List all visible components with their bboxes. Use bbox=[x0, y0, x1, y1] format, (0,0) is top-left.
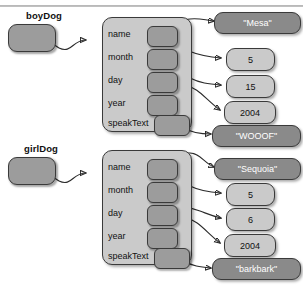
field-label-name: name bbox=[108, 162, 131, 172]
field-slot-day[interactable] bbox=[147, 72, 178, 93]
top-divider-rule bbox=[0, 5, 303, 7]
field-slot-name[interactable] bbox=[147, 26, 178, 47]
field-label-speaktext: speakText bbox=[108, 118, 149, 128]
field-slot-day[interactable] bbox=[147, 205, 178, 226]
object-box-boydog[interactable]: name month day year speakText bbox=[102, 17, 192, 132]
value-box-girldog-name[interactable]: "Sequoia" bbox=[214, 158, 301, 180]
variable-label-boydog: boyDog bbox=[26, 10, 62, 21]
field-label-day: day bbox=[108, 75, 123, 85]
value-box-girldog-speaktext[interactable]: "barkbark" bbox=[212, 258, 301, 280]
field-row-day: day bbox=[103, 70, 191, 92]
field-label-day: day bbox=[108, 208, 123, 218]
field-row-speaktext: speakText bbox=[103, 246, 191, 268]
variable-label-girldog: girlDog bbox=[24, 143, 58, 154]
reference-box-girldog[interactable] bbox=[8, 157, 56, 185]
value-box-boydog-name[interactable]: "Mesa" bbox=[214, 12, 301, 34]
value-box-boydog-month[interactable]: 5 bbox=[226, 48, 275, 71]
field-row-year: year bbox=[103, 93, 191, 115]
field-label-month: month bbox=[108, 185, 133, 195]
value-box-girldog-year[interactable]: 2004 bbox=[224, 234, 276, 257]
object-box-girldog[interactable]: name month day year speakText bbox=[102, 150, 192, 265]
value-box-girldog-day[interactable]: 6 bbox=[226, 208, 275, 231]
field-row-name: name bbox=[103, 24, 191, 46]
field-slot-month[interactable] bbox=[147, 49, 178, 70]
field-row-speaktext: speakText bbox=[103, 113, 191, 135]
field-label-year: year bbox=[108, 98, 126, 108]
value-box-girldog-month[interactable]: 5 bbox=[226, 183, 275, 206]
value-box-boydog-speaktext[interactable]: "WOOOF" bbox=[212, 125, 301, 147]
value-box-boydog-year[interactable]: 2004 bbox=[224, 101, 276, 124]
diagram-canvas: boyDog name month day year speakText "Me… bbox=[0, 0, 303, 299]
field-row-name: name bbox=[103, 157, 191, 179]
reference-box-boydog[interactable] bbox=[8, 24, 56, 52]
field-slot-speaktext[interactable] bbox=[154, 115, 190, 136]
field-slot-speaktext[interactable] bbox=[154, 248, 190, 269]
field-row-year: year bbox=[103, 226, 191, 248]
field-row-month: month bbox=[103, 180, 191, 202]
field-row-day: day bbox=[103, 203, 191, 225]
field-row-month: month bbox=[103, 47, 191, 69]
field-label-month: month bbox=[108, 52, 133, 62]
field-slot-month[interactable] bbox=[147, 182, 178, 203]
field-label-name: name bbox=[108, 29, 131, 39]
field-slot-name[interactable] bbox=[147, 159, 178, 180]
field-label-year: year bbox=[108, 231, 126, 241]
value-box-boydog-day[interactable]: 15 bbox=[226, 75, 275, 98]
field-label-speaktext: speakText bbox=[108, 251, 149, 261]
